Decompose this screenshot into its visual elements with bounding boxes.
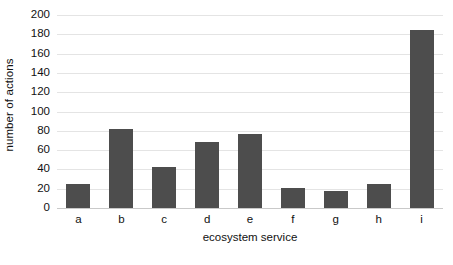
bar [410, 30, 434, 208]
bar [324, 191, 348, 208]
bar-slot [367, 15, 391, 208]
bar [152, 167, 176, 208]
y-axis-title-label: number of actions [3, 58, 15, 151]
y-tick-label: 100 [31, 106, 50, 118]
bar-slot [152, 15, 176, 208]
x-tick-label: h [375, 211, 381, 227]
y-tick-label: 140 [31, 67, 50, 79]
x-tick-label: c [161, 211, 167, 227]
bar-slot [238, 15, 262, 208]
y-axis-title: number of actions [0, 0, 18, 210]
x-tick-label: e [247, 211, 253, 227]
y-tick-label: 120 [31, 86, 50, 98]
x-tick-label: d [204, 211, 210, 227]
x-axis-tick-labels: abcdefghi [57, 211, 443, 229]
bar-chart: number of actions 0204060801001201401601… [0, 0, 453, 265]
bar [195, 142, 219, 208]
bar-slot [324, 15, 348, 208]
bar [238, 134, 262, 208]
bar-slot [109, 15, 133, 208]
y-tick-label: 60 [37, 144, 50, 156]
y-tick-label: 80 [37, 125, 50, 137]
bar-slot [66, 15, 90, 208]
bar [109, 129, 133, 208]
gridline [57, 208, 443, 209]
bar [281, 188, 305, 208]
bar [367, 184, 391, 208]
x-axis-title: ecosystem service [57, 231, 443, 243]
y-tick-label: 20 [37, 183, 50, 195]
bar-slot [410, 15, 434, 208]
y-tick-label: 160 [31, 48, 50, 60]
x-tick-label: a [75, 211, 81, 227]
x-tick-label: b [118, 211, 124, 227]
y-tick-label: 200 [31, 9, 50, 21]
y-tick-label: 40 [37, 164, 50, 176]
y-tick-label: 0 [44, 202, 50, 214]
x-tick-label: g [333, 211, 339, 227]
plot-area [57, 15, 443, 208]
bar-slot [195, 15, 219, 208]
bar [66, 184, 90, 208]
y-tick-label: 180 [31, 29, 50, 41]
y-axis-tick-labels: 020406080100120140160180200 [18, 15, 54, 208]
bars [57, 15, 443, 208]
x-tick-label: f [291, 211, 294, 227]
bar-slot [281, 15, 305, 208]
x-tick-label: i [420, 211, 423, 227]
